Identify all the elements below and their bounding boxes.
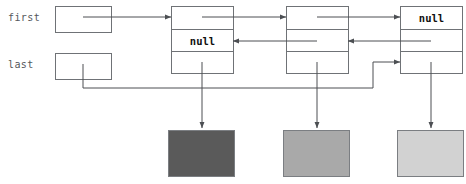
reference-box-first[interactable]	[56, 7, 112, 33]
diagram-canvas: first last null null	[0, 0, 466, 184]
node-1-prev-null-label: null	[190, 35, 215, 47]
data-object-2[interactable]	[284, 131, 350, 177]
reference-label-first: first	[8, 12, 40, 23]
data-object-3[interactable]	[398, 131, 464, 177]
node-3-next-null-label: null	[419, 12, 444, 24]
pointer-last-to-node3	[83, 62, 400, 88]
reference-label-last: last	[8, 59, 34, 70]
linked-list-diagram: first last null null	[0, 0, 466, 184]
data-object-1[interactable]	[169, 131, 235, 177]
